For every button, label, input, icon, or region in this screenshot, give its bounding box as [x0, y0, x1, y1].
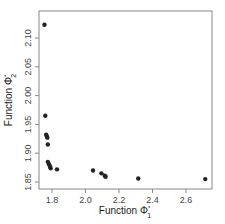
y-tick-label: 1.90: [23, 144, 33, 162]
data-point: [43, 114, 47, 118]
data-points: [42, 23, 207, 182]
x-tick-label: 2.6: [180, 195, 193, 205]
data-point: [42, 23, 46, 27]
data-point: [46, 142, 50, 146]
data-point: [203, 177, 207, 181]
data-point: [91, 168, 95, 172]
data-point: [45, 135, 49, 139]
x-axis: 1.82.02.22.42.6: [46, 189, 193, 205]
data-point: [136, 176, 140, 180]
data-point: [103, 175, 107, 179]
x-axis-title: Function Φ*1: [99, 205, 151, 219]
y-axis: 1.851.901.952.002.052.10: [23, 29, 39, 191]
x-tick-label: 2.0: [79, 195, 92, 205]
data-point: [48, 166, 52, 170]
x-tick-label: 2.4: [146, 195, 159, 205]
y-tick-label: 1.95: [23, 116, 33, 134]
y-tick-label: 2.05: [23, 58, 33, 76]
y-tick-label: 1.85: [23, 173, 33, 191]
scatter-plot: 1.851.901.952.002.052.10 1.82.02.22.42.6…: [0, 0, 225, 224]
plot-frame: [39, 11, 212, 189]
x-tick-label: 1.8: [46, 195, 59, 205]
y-axis-title: Function Φ*2: [3, 74, 17, 126]
y-tick-label: 2.00: [23, 87, 33, 105]
data-point: [55, 167, 59, 171]
x-tick-label: 2.2: [113, 195, 126, 205]
y-tick-label: 2.10: [23, 29, 33, 47]
